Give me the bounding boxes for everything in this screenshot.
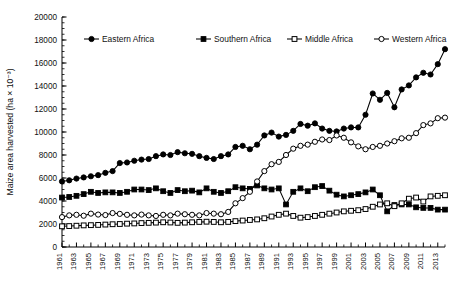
data-point (421, 206, 426, 211)
data-point (298, 215, 303, 220)
data-point (428, 72, 433, 77)
data-point (161, 212, 166, 217)
data-point (378, 202, 383, 207)
data-point (435, 193, 440, 198)
data-point (247, 189, 252, 194)
data-point (153, 154, 158, 159)
data-point (363, 190, 368, 195)
data-point (233, 219, 238, 224)
data-point (291, 214, 296, 219)
data-point (284, 202, 289, 207)
data-point (356, 208, 361, 213)
data-point (110, 222, 115, 227)
data-point (161, 189, 166, 194)
legend-marker-open-square (292, 37, 297, 42)
data-point (443, 207, 448, 212)
data-point (255, 179, 260, 184)
data-point (356, 144, 361, 149)
data-point (305, 142, 310, 147)
x-tick-label: 2009 (402, 253, 411, 270)
data-point (414, 195, 419, 200)
data-point (154, 186, 159, 191)
data-point (428, 121, 433, 126)
data-point (139, 212, 144, 217)
data-point (182, 220, 187, 225)
data-point (399, 87, 404, 92)
data-point (233, 144, 238, 149)
data-point (175, 150, 180, 155)
x-tick-label: 1985 (228, 253, 237, 270)
data-point (175, 220, 180, 225)
data-point (139, 221, 144, 226)
data-point (291, 189, 296, 194)
data-point (197, 154, 202, 159)
data-point (399, 201, 404, 206)
data-point (298, 186, 303, 191)
data-point (413, 131, 418, 136)
data-point (219, 191, 224, 196)
x-tick-label: 1983 (214, 253, 223, 270)
data-point (406, 202, 411, 207)
data-point (96, 223, 101, 228)
x-tick-label: 1999 (330, 253, 339, 270)
y-tick-label: 14000 (34, 82, 57, 91)
x-tick-label: 2005 (373, 253, 382, 270)
x-tick-label: 1987 (243, 253, 252, 270)
data-point (341, 135, 346, 140)
data-point (154, 220, 159, 225)
y-tick-label: 16000 (34, 59, 57, 68)
data-point (255, 217, 260, 222)
data-point (204, 155, 209, 160)
data-point (74, 176, 79, 181)
data-point (110, 190, 115, 195)
x-tick-label: 1973 (142, 253, 151, 270)
legend-marker-filled-square (201, 37, 206, 42)
data-point (298, 121, 303, 126)
data-point (349, 208, 354, 213)
data-point (197, 220, 202, 225)
data-point (421, 199, 426, 204)
data-point (320, 212, 325, 217)
series-southern-africa (60, 183, 448, 214)
data-point (67, 195, 72, 200)
data-point (421, 70, 426, 75)
data-point (132, 187, 137, 192)
data-point (406, 135, 411, 140)
data-point (283, 132, 288, 137)
data-point (240, 143, 245, 148)
data-point (189, 212, 194, 217)
x-tick-label: 1967 (98, 253, 107, 270)
data-point (334, 133, 339, 138)
chart-legend: Eastern AfricaSouthern AfricaMiddle Afri… (84, 34, 447, 44)
data-point (247, 218, 252, 223)
x-tick-label: 1997 (315, 253, 324, 270)
data-point (197, 213, 202, 218)
data-point (435, 207, 440, 212)
data-point (298, 143, 303, 148)
data-point (197, 190, 202, 195)
data-point (442, 115, 447, 120)
data-point (226, 189, 231, 194)
data-point (349, 193, 354, 198)
chart-container: 0200040006000800010000120001400016000180… (0, 0, 460, 306)
legend-marker-filled-circle (89, 36, 94, 41)
y-tick-label: 6000 (39, 174, 58, 183)
data-point (320, 137, 325, 142)
data-point (153, 213, 158, 218)
data-point (182, 212, 187, 217)
data-point (67, 213, 72, 218)
data-point (313, 214, 318, 219)
data-point (320, 126, 325, 131)
data-point (81, 223, 86, 228)
data-point (168, 220, 173, 225)
data-point (399, 136, 404, 141)
legend-marker-open-circle (379, 36, 384, 41)
data-point (363, 207, 368, 212)
data-point (132, 158, 137, 163)
data-point (81, 213, 86, 218)
data-point (233, 185, 238, 190)
data-point (190, 220, 195, 225)
data-point (211, 220, 216, 225)
legend-label: Middle Africa (305, 34, 353, 44)
data-point (363, 112, 368, 117)
